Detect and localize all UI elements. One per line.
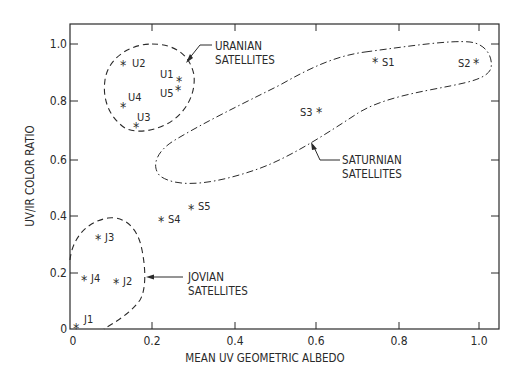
jovian-label-line2: SATELLITES <box>188 284 248 298</box>
jovian-arrowhead <box>146 275 154 280</box>
marker-S1: * <box>372 54 378 70</box>
scatter-chart: 0 0.2 0.4 0.6 0.8 1.0 0 0.2 0.4 0.6 0.8 … <box>0 0 522 381</box>
uranian-label-line2: SATELLITES <box>215 53 275 67</box>
y-tick-0: 0 <box>60 322 67 336</box>
y-tick-0-8: 0.8 <box>50 94 67 108</box>
point-label-J1: J1 <box>83 313 93 326</box>
chart-canvas: 0 0.2 0.4 0.6 0.8 1.0 0 0.2 0.4 0.6 0.8 … <box>0 0 522 381</box>
marker-U2: * <box>120 57 126 73</box>
y-axis-label: UV/IR COLOR RATIO <box>23 125 37 226</box>
x-tick-0: 0 <box>70 334 77 348</box>
saturnian-leader <box>313 145 340 160</box>
x-tick-0-8: 0.8 <box>390 334 407 348</box>
x-tick-0-2: 0.2 <box>143 334 160 348</box>
y-ticks <box>70 44 499 273</box>
point-label-S1: S1 <box>382 56 395 69</box>
point-label-S2: S2 <box>458 57 471 70</box>
saturnian-arrowhead <box>311 142 317 150</box>
saturnian-points: * S1 S2 * S3 * * S4 * S5 <box>158 54 479 229</box>
marker-U3: * <box>133 119 139 135</box>
y-tick-0-2: 0.2 <box>50 266 67 280</box>
marker-J4: * <box>81 272 87 288</box>
x-tick-0-4: 0.4 <box>226 334 243 348</box>
marker-J1: * <box>73 320 79 336</box>
point-label-U1: U1 <box>160 68 174 81</box>
saturnian-boundary <box>156 42 492 184</box>
point-label-J3: J3 <box>104 231 114 244</box>
jovian-label-line1: JOVIAN <box>187 270 224 284</box>
marker-J2: * <box>113 275 119 291</box>
point-label-U4: U4 <box>128 91 142 104</box>
marker-U4: * <box>120 99 126 115</box>
marker-S4: * <box>158 213 164 229</box>
y-tick-labels: 0 0.2 0.4 0.6 0.8 1.0 <box>50 37 67 336</box>
uranian-points: * U2 U1 * U5 * U4 * U3 * <box>120 57 182 135</box>
saturnian-label-line1: SATURNIAN <box>342 153 402 167</box>
marker-S2: * <box>473 55 479 71</box>
saturnian-label-line2: SATELLITES <box>342 167 402 181</box>
x-axis-label: MEAN UV GEOMETRIC ALBEDO <box>185 351 344 365</box>
marker-J3: * <box>95 231 101 247</box>
x-tick-0-6: 0.6 <box>307 334 324 348</box>
y-tick-0-4: 0.4 <box>50 209 67 223</box>
point-label-S3: S3 <box>300 106 313 119</box>
jovian-points: * J3 * J4 * J2 * J1 <box>73 231 132 336</box>
point-label-U5: U5 <box>160 87 174 100</box>
marker-S5: * <box>188 201 194 217</box>
point-label-S5: S5 <box>198 200 211 213</box>
x-tick-1-0: 1.0 <box>470 334 487 348</box>
marker-S3: * <box>316 104 322 120</box>
y-tick-0-6: 0.6 <box>50 153 67 167</box>
point-label-J4: J4 <box>90 272 100 285</box>
x-tick-labels: 0 0.2 0.4 0.6 0.8 1.0 <box>70 334 488 348</box>
point-label-J2: J2 <box>122 275 132 288</box>
point-label-U2: U2 <box>132 57 146 70</box>
point-label-S4: S4 <box>168 213 181 226</box>
y-tick-1-0: 1.0 <box>50 37 67 51</box>
uranian-label-line1: URANIAN <box>215 39 262 53</box>
marker-U5: * <box>175 82 181 98</box>
